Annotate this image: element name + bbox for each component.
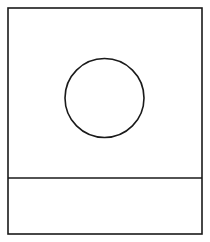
- outer-frame: [8, 8, 202, 234]
- diagram-canvas: [0, 0, 210, 242]
- center-circle: [65, 59, 144, 138]
